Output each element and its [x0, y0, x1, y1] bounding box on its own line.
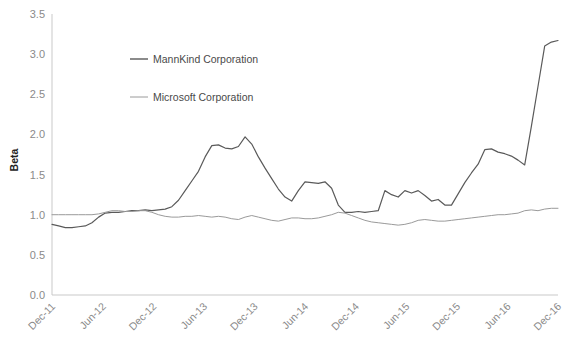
x-tick-label: Jun-15: [380, 300, 411, 331]
x-tick-label: Dec-11: [26, 300, 58, 332]
y-axis-tick-labels: 0.00.51.01.52.02.53.03.5: [30, 8, 45, 301]
legend-label: MannKind Corporation: [153, 53, 258, 65]
x-tick-label: Jun-12: [77, 300, 108, 331]
x-tick-label: Jun-13: [178, 300, 209, 331]
x-tick-label: Dec-13: [227, 300, 260, 333]
y-tick-label: 1.5: [30, 169, 45, 181]
x-axis-tick-labels: Dec-11Jun-12Dec-12Jun-13Dec-13Jun-14Dec-…: [26, 300, 564, 333]
x-tick-label: Jun-14: [279, 300, 310, 331]
y-tick-label: 3.0: [30, 48, 45, 60]
y-tick-label: 2.5: [30, 88, 45, 100]
y-tick-label: 3.5: [30, 8, 45, 20]
y-axis-title: Beta: [8, 148, 20, 171]
x-tick-label: Dec-14: [329, 300, 362, 333]
y-tick-label: 0.0: [30, 289, 45, 301]
x-tick-label: Dec-16: [531, 300, 564, 333]
y-tick-label: 1.0: [30, 209, 45, 221]
y-tick-label: 2.0: [30, 128, 45, 140]
series-paths: [52, 40, 558, 227]
series-line-mannkind: [52, 40, 558, 227]
chart-canvas: 0.00.51.01.52.02.53.03.5 Dec-11Jun-12Dec…: [0, 0, 566, 347]
legend-label: Microsoft Corporation: [153, 91, 254, 103]
x-tick-label: Dec-12: [126, 300, 159, 333]
beta-line-chart: 0.00.51.01.52.02.53.03.5 Dec-11Jun-12Dec…: [0, 0, 566, 347]
legend: MannKind CorporationMicrosoft Corporatio…: [130, 53, 258, 103]
x-tick-label: Jun-16: [482, 300, 513, 331]
x-tick-label: Dec-15: [430, 300, 463, 333]
y-tick-label: 0.5: [30, 249, 45, 261]
